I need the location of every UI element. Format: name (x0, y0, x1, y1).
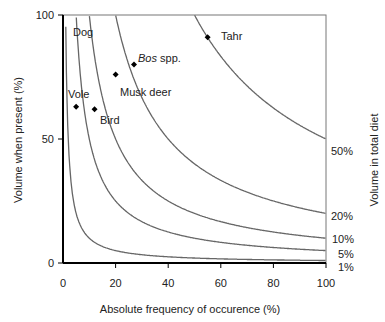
isoline-20pct (116, 16, 326, 214)
label-musk-deer: Musk deer (120, 86, 172, 98)
point-musk-deer (113, 72, 119, 78)
point-bird (92, 106, 98, 112)
x-tick-60: 60 (215, 277, 227, 289)
label-bos-genus: Bos (138, 52, 157, 64)
isoline-label-1: 1% (338, 261, 354, 273)
x-tick-20: 20 (109, 277, 121, 289)
label-bird: Bird (100, 114, 120, 126)
isoline-1pct (66, 27, 326, 261)
label-bos: Bos spp. (138, 52, 181, 64)
isoline-label-5: 5% (338, 248, 354, 260)
label-vole: Vole (68, 88, 89, 100)
axis-ticks (58, 15, 326, 268)
x-tick-100: 100 (317, 277, 335, 289)
label-dog: Dog (73, 26, 93, 38)
x-tick-0: 0 (60, 277, 66, 289)
x-tick-80: 80 (267, 277, 279, 289)
point-vole (73, 104, 79, 110)
isoline-label-10: 10% (332, 233, 354, 245)
y-tick-100: 100 (36, 9, 54, 21)
isoline-label-20: 20% (331, 210, 353, 222)
right-axis-title: Volume in total diet (368, 114, 380, 207)
label-bos-spp: spp. (157, 52, 181, 64)
x-axis-title: Absolute frequency of occurence (%) (100, 303, 280, 315)
plot-frame (63, 15, 326, 263)
isolines (66, 15, 326, 260)
data-points (73, 34, 211, 112)
point-bos-spp- (131, 62, 137, 68)
diet-isoline-chart: 0 20 40 60 80 100 0 50 100 50% 20% 10% 5… (0, 0, 385, 322)
y-tick-50: 50 (42, 133, 54, 145)
y-axis-title: Volume when present (%) (12, 77, 24, 203)
isoline-50pct (195, 15, 326, 139)
y-tick-0: 0 (48, 257, 54, 269)
x-tick-40: 40 (162, 277, 174, 289)
isoline-label-50: 50% (331, 145, 353, 157)
label-tahr: Tahr (221, 30, 243, 42)
